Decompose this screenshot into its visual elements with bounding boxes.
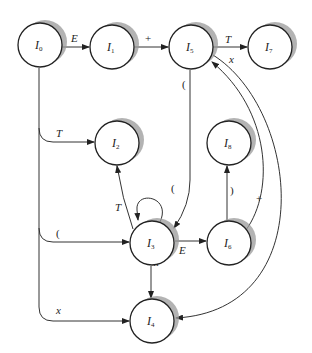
edge-labels: E + T x ( T ( x T ( E x ) + [55,32,262,316]
node-i1: I1 [90,22,139,69]
edge-i5-i3 [174,70,190,228]
label-i1-i5: + [145,32,151,44]
label-i0-i4: x [55,304,61,316]
label-i6-i5: + [256,192,262,204]
edge-i3-i2 [117,166,133,229]
node-i5: I5 [169,22,218,69]
node-i6: I6 [207,218,256,265]
edges [39,47,281,321]
label-i5-i3: ( [182,78,186,91]
state-diagram: E + T x ( T ( x T ( E x ) + I0 I1 I5 I7 … [0,0,312,353]
label-i0-i1: E [70,32,78,44]
node-i4: I4 [130,296,179,343]
node-i8: I8 [207,118,256,165]
label-i5-i4: x [228,53,234,65]
node-i3: I3 [130,218,179,265]
edge-i0-trunk [39,68,129,321]
label-i3-i2: T [115,201,122,213]
label-i0-i3: ( [56,227,60,240]
node-i2: I2 [95,118,144,165]
edge-i0-i3 [39,228,129,242]
label-i5-i7: T [225,33,232,45]
edge-i5-i4 [176,55,281,318]
edge-i0-i2 [39,128,94,142]
label-i0-i2: T [56,127,63,139]
label-i3-loop: ( [171,182,175,195]
label-i6-i8: ) [230,184,234,197]
node-i0: I0 [18,20,67,67]
label-i3-i6: E [178,244,186,256]
node-i7: I7 [248,22,297,69]
